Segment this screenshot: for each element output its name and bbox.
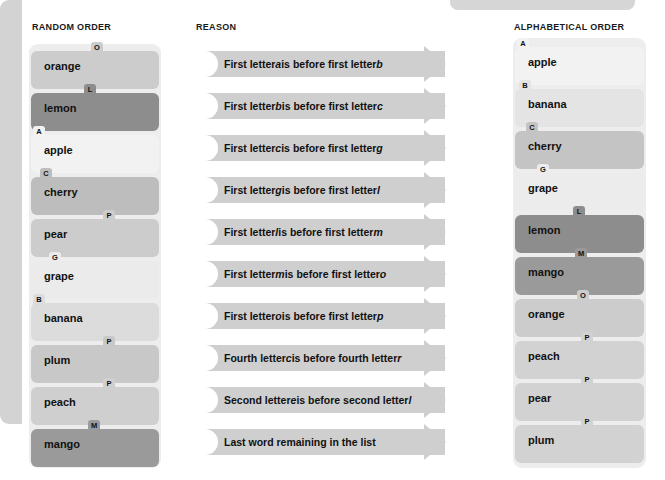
reason-arrow-5[interactable]: First letter l is before first letter m [200, 219, 445, 245]
random-label-plum: plum [44, 354, 70, 366]
random-tab-p-plum: P [103, 336, 115, 347]
reason-text-2: First letter b is before first letter c [224, 93, 383, 119]
random-tab-p-pear: P [103, 210, 115, 221]
random-card-orange[interactable]: Oorange [31, 51, 159, 89]
random-card-grape[interactable]: Ggrape [31, 261, 159, 299]
random-tab-l-lemon: L [84, 84, 96, 95]
reason-letter-second: c [377, 100, 383, 112]
arrow-head-icon [424, 424, 446, 460]
reason-letter-first: g [275, 184, 281, 196]
alpha-tab-p-peach: P [581, 332, 593, 343]
reason-letter-second: b [376, 58, 382, 70]
alpha-label-lemon: lemon [528, 224, 560, 236]
reason-arrow-1[interactable]: First letter a is before first letter b [200, 51, 445, 77]
alpha-label-grape: grape [528, 182, 558, 194]
random-tab-m-mango: M [88, 420, 100, 431]
random-label-grape: grape [44, 270, 74, 282]
random-card-banana[interactable]: Bbanana [31, 303, 159, 341]
arrow-head-icon [424, 46, 446, 82]
cut-off-pill-shape [450, 0, 635, 10]
reason-letter-second: o [380, 268, 386, 280]
reason-text-7: First letter o is before first letter p [224, 303, 383, 329]
reason-text-3: First letter c is before first letter g [224, 135, 383, 161]
alpha-tab-p-plum: P [581, 416, 593, 427]
arrow-head-icon [424, 214, 446, 250]
reason-text-4: First letter g is before first letter l [224, 177, 380, 203]
alpha-card-peach[interactable]: Ppeach [515, 341, 644, 379]
alpha-label-cherry: cherry [528, 140, 562, 152]
reason-arrow-7[interactable]: First letter o is before first letter p [200, 303, 445, 329]
arrow-head-icon [424, 382, 446, 418]
reason-text-9: Second letter e is before second letter … [224, 387, 411, 413]
random-tab-b-banana: B [33, 294, 45, 305]
random-card-lemon[interactable]: Llemon [31, 93, 159, 131]
alpha-tab-b-banana: B [519, 80, 531, 91]
alpha-card-plum[interactable]: Pplum [515, 425, 644, 463]
reason-letter-first: b [275, 100, 281, 112]
reason-letter-first: c [275, 142, 281, 154]
random-tab-o-orange: O [91, 42, 103, 53]
reason-text-8: Fourth letter c is before fourth letter … [224, 345, 401, 371]
alpha-label-banana: banana [528, 98, 567, 110]
random-label-pear: pear [44, 228, 67, 240]
reason-arrow-10[interactable]: Last word remaining in the list [200, 429, 445, 455]
reason-letter-first: m [275, 268, 284, 280]
random-tab-a-apple: A [33, 126, 45, 137]
alpha-label-apple: apple [528, 56, 557, 68]
alpha-tab-a-apple: A [517, 38, 529, 49]
random-label-orange: orange [44, 60, 81, 72]
arrow-notch [200, 51, 218, 77]
alpha-tab-m-mango: M [575, 248, 587, 259]
reason-letter-first: c [286, 352, 292, 364]
alpha-card-apple[interactable]: Aapple [515, 47, 644, 85]
alpha-label-mango: mango [528, 266, 564, 278]
alpha-label-pear: pear [528, 392, 551, 404]
random-label-banana: banana [44, 312, 83, 324]
reason-arrow-3[interactable]: First letter c is before first letter g [200, 135, 445, 161]
reason-letter-second: g [376, 142, 382, 154]
arrow-head-icon [424, 172, 446, 208]
arrow-head-icon [424, 130, 446, 166]
reason-arrow-4[interactable]: First letter g is before first letter l [200, 177, 445, 203]
random-label-peach: peach [44, 396, 76, 408]
arrow-notch [200, 219, 218, 245]
reason-arrow-8[interactable]: Fourth letter c is before fourth letter … [200, 345, 445, 371]
arrow-notch [200, 135, 218, 161]
random-label-cherry: cherry [44, 186, 78, 198]
reason-letter-second: m [373, 226, 382, 238]
alpha-tab-o-orange: O [577, 290, 589, 301]
reason-panel-spine [0, 0, 22, 424]
random-label-apple: apple [44, 144, 73, 156]
column-header-reason: REASON [196, 22, 236, 32]
alpha-label-orange: orange [528, 308, 565, 320]
reason-letter-first: e [291, 394, 297, 406]
arrow-notch [200, 429, 218, 455]
random-tab-c-cherry: C [40, 168, 52, 179]
arrow-notch [200, 303, 218, 329]
arrow-notch [200, 261, 218, 287]
random-tab-p-peach: P [103, 378, 115, 389]
alpha-card-pear[interactable]: Ppear [515, 383, 644, 421]
random-label-mango: mango [44, 438, 80, 450]
random-label-lemon: lemon [44, 102, 76, 114]
reason-letter-first: l [275, 226, 278, 238]
alpha-card-orange[interactable]: Oorange [515, 299, 644, 337]
arrow-head-icon [424, 88, 446, 124]
arrow-notch [200, 93, 218, 119]
random-card-cherry[interactable]: Ccherry [31, 177, 159, 215]
arrow-notch [200, 345, 218, 371]
reason-text-1: First letter a is before first letter b [224, 51, 383, 77]
reason-letter-first: a [275, 58, 281, 70]
random-card-plum[interactable]: Pplum [31, 345, 159, 383]
random-tab-g-grape: G [49, 252, 61, 263]
arrow-head-icon [424, 340, 446, 376]
reason-letter-second: p [377, 310, 383, 322]
alpha-card-cherry[interactable]: Ccherry [515, 131, 644, 169]
alpha-label-plum: plum [528, 434, 554, 446]
reason-arrow-9[interactable]: Second letter e is before second letter … [200, 387, 445, 413]
alpha-tab-g-grape: G [537, 164, 549, 175]
random-card-mango[interactable]: Mmango [31, 429, 159, 467]
reason-arrow-2[interactable]: First letter b is before first letter c [200, 93, 445, 119]
column-header-random-order: RANDOM ORDER [32, 22, 111, 32]
reason-arrow-6[interactable]: First letter m is before first letter o [200, 261, 445, 287]
